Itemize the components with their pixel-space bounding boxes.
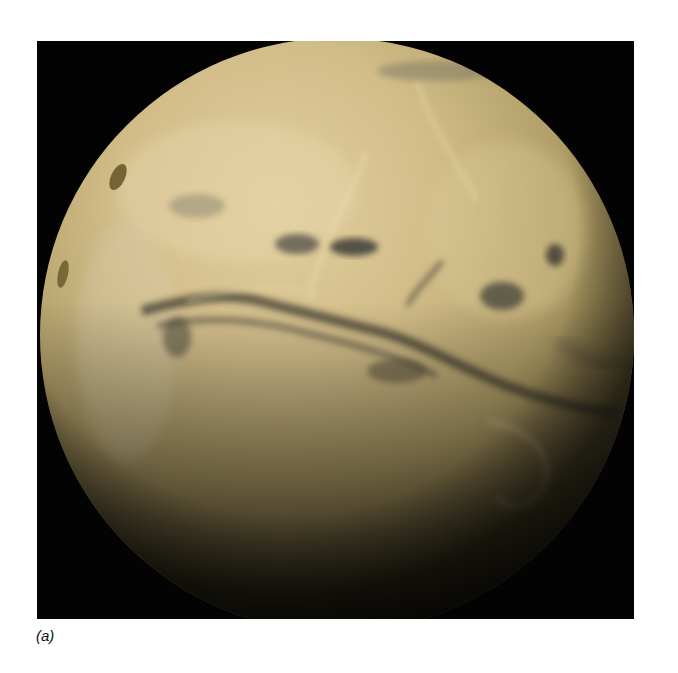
figure-caption: (a) — [36, 627, 54, 644]
mars-planet-image — [37, 41, 634, 619]
mars-photo-frame — [37, 41, 634, 619]
